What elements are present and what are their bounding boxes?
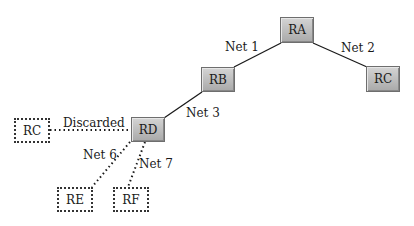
router-label: RD bbox=[139, 123, 158, 137]
router-label: RB bbox=[209, 73, 227, 87]
router-rc-left-discarded: RC bbox=[14, 118, 50, 143]
router-label: RC bbox=[374, 72, 392, 86]
router-label: RA bbox=[288, 23, 306, 37]
link-label-net3: Net 3 bbox=[186, 106, 220, 120]
link-label-net6: Net 6 bbox=[83, 148, 117, 162]
router-rf: RF bbox=[113, 187, 149, 212]
router-label: RF bbox=[122, 193, 139, 207]
router-rd: RD bbox=[131, 117, 165, 142]
router-label: RC bbox=[23, 124, 41, 138]
router-rb: RB bbox=[201, 67, 235, 92]
link-label-discarded: Discarded bbox=[63, 116, 125, 130]
router-label: RE bbox=[66, 193, 84, 207]
link-label-net1: Net 1 bbox=[225, 40, 259, 54]
router-rc-right: RC bbox=[366, 66, 400, 92]
router-ra: RA bbox=[280, 17, 314, 43]
link-label-net7: Net 7 bbox=[139, 157, 173, 171]
link-label-net2: Net 2 bbox=[341, 41, 375, 55]
network-topology-diagram: RA RC RB RD RC RE RF Net 1 Net 2 Net 3 D… bbox=[0, 0, 414, 226]
router-re: RE bbox=[57, 187, 93, 212]
